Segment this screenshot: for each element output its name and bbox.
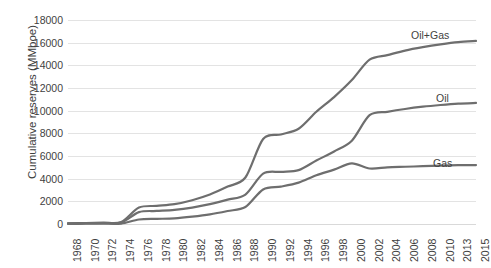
- y-axis-tick-labels: 0200040006000800010000120001400016000180…: [18, 0, 63, 268]
- series-label-oil-plus-gas: Oil+Gas: [411, 29, 449, 41]
- y-tick-label: 10000: [23, 106, 63, 116]
- x-tick-label: 1982: [196, 239, 206, 262]
- x-tick-label: 1988: [249, 239, 259, 262]
- x-axis-line: [68, 224, 476, 225]
- x-tick-label: 2006: [409, 239, 419, 262]
- x-axis-tick-labels: 1968197019721974197619781980198219841986…: [68, 226, 476, 268]
- y-tick-label: 2000: [23, 196, 63, 206]
- x-tick-label: 2013: [462, 239, 472, 262]
- x-tick-label: 1996: [320, 239, 330, 262]
- x-tick-label: 1992: [285, 239, 295, 262]
- x-tick-label: 2015: [480, 239, 490, 262]
- x-tick-label: 1980: [178, 239, 188, 262]
- y-tick-label: 18000: [23, 15, 63, 25]
- x-tick-label: 1968: [72, 239, 82, 262]
- series-label-gas: Gas: [433, 157, 452, 169]
- x-tick-label: 1994: [303, 239, 313, 262]
- series-line-oil: [68, 103, 476, 223]
- y-tick-label: 4000: [23, 174, 63, 184]
- series-line-oil-plus-gas: [68, 41, 476, 223]
- x-tick-label: 1986: [232, 239, 242, 262]
- x-tick-label: 2010: [445, 239, 455, 262]
- y-tick-label: 6000: [23, 151, 63, 161]
- x-tick-label: 1978: [161, 239, 171, 262]
- y-tick-label: 14000: [23, 60, 63, 70]
- series-label-oil: Oil: [436, 92, 449, 104]
- x-tick-label: 1970: [90, 239, 100, 262]
- y-tick-label: 0: [23, 219, 63, 229]
- x-tick-label: 1990: [267, 239, 277, 262]
- x-tick-label: 2008: [427, 239, 437, 262]
- x-tick-label: 1976: [143, 239, 153, 262]
- x-tick-label: 2004: [391, 239, 401, 262]
- y-tick-label: 8000: [23, 128, 63, 138]
- x-tick-label: 1974: [125, 239, 135, 262]
- y-tick-label: 16000: [23, 38, 63, 48]
- x-tick-label: 1972: [107, 239, 117, 262]
- plot-area: [68, 20, 476, 224]
- series-lines: [68, 20, 476, 224]
- x-tick-label: 1984: [214, 239, 224, 262]
- y-tick-label: 12000: [23, 83, 63, 93]
- x-tick-label: 2002: [374, 239, 384, 262]
- x-tick-label: 2000: [356, 239, 366, 262]
- x-tick-label: 1998: [338, 239, 348, 262]
